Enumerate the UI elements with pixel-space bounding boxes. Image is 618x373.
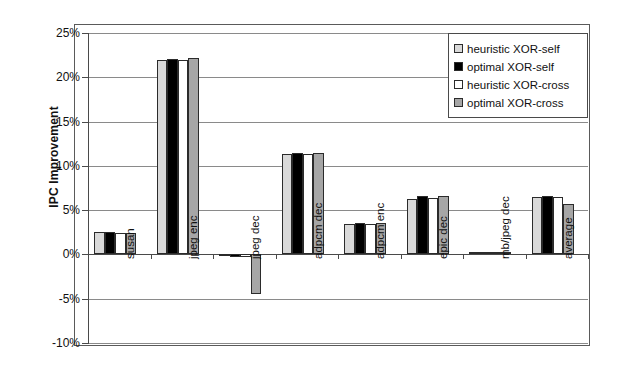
bar xyxy=(355,223,366,254)
x-axis-tick xyxy=(276,254,277,259)
legend-label: optimal XOR-self xyxy=(467,61,554,73)
bar xyxy=(230,254,241,257)
legend-swatch-icon xyxy=(454,62,463,71)
y-axis-tick-label: -10% xyxy=(34,337,80,349)
chart-figure: IPC Improvement 25%20%15%10%5%0%-5%-10% … xyxy=(0,0,618,373)
bar xyxy=(542,196,553,254)
y-axis-tick-label: 10% xyxy=(34,160,80,172)
y-axis-tick-label: -5% xyxy=(34,293,80,305)
legend-swatch-icon xyxy=(454,44,463,53)
bar xyxy=(94,232,105,254)
x-axis-tick xyxy=(338,254,339,259)
bar xyxy=(292,153,303,254)
bar xyxy=(219,254,230,256)
bar xyxy=(167,59,178,255)
y-axis-tick-label: 15% xyxy=(34,116,80,128)
legend-label: heuristic XOR-cross xyxy=(467,79,569,91)
bar xyxy=(480,252,491,255)
x-axis-category-label: jpeg enc xyxy=(187,216,199,259)
gridline xyxy=(88,343,588,344)
bar xyxy=(344,224,355,254)
bar xyxy=(407,199,418,255)
bar xyxy=(417,196,428,254)
bar xyxy=(282,154,293,254)
x-axis-tick xyxy=(401,254,402,259)
y-axis-tick-label: 5% xyxy=(34,204,80,216)
y-axis-tick-label: 25% xyxy=(34,27,80,39)
bar xyxy=(251,254,262,294)
bar xyxy=(532,197,543,255)
y-axis-tick-label: 20% xyxy=(34,71,80,83)
legend-swatch-icon xyxy=(454,98,463,107)
x-axis-category-label: susan xyxy=(124,229,136,260)
x-axis-category-label: adpcm dec xyxy=(312,203,324,259)
y-axis-tick-label: 0% xyxy=(34,248,80,260)
legend-label: heuristic XOR-self xyxy=(467,43,560,55)
bar xyxy=(469,252,480,255)
legend-item: optimal XOR-cross xyxy=(454,94,583,111)
x-axis-category-label: mb/jpeg dec xyxy=(499,197,511,260)
legend-swatch-icon xyxy=(454,80,463,89)
x-axis-category-label: jpeg dec xyxy=(249,216,261,259)
x-axis-category-label: average xyxy=(562,218,574,260)
x-axis-category-label: adpcm enc xyxy=(374,203,386,259)
x-axis-tick xyxy=(151,254,152,259)
y-axis-tick xyxy=(82,343,89,344)
legend-item: heuristic XOR-self xyxy=(454,40,583,57)
bar xyxy=(157,60,168,254)
x-axis-tick xyxy=(526,254,527,259)
bar xyxy=(105,232,116,254)
legend-item: heuristic XOR-cross xyxy=(454,76,583,93)
x-axis-tick xyxy=(588,254,589,259)
x-axis-category-label: epic dec xyxy=(437,217,449,260)
legend-item: optimal XOR-self xyxy=(454,58,583,75)
x-axis-tick xyxy=(463,254,464,259)
legend-label: optimal XOR-cross xyxy=(467,97,564,109)
x-axis-tick xyxy=(213,254,214,259)
chart-legend: heuristic XOR-selfoptimal XOR-selfheuris… xyxy=(448,33,588,118)
